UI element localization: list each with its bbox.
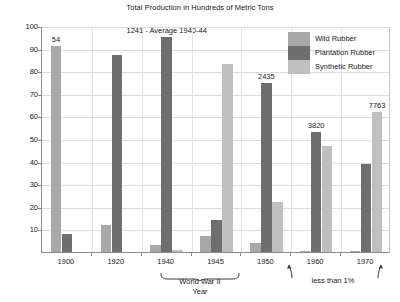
- bar-value-label: 3820: [299, 122, 333, 130]
- y-axis-tick-label: 90: [0, 46, 38, 54]
- less-than-one-label: less than 1%: [288, 276, 378, 285]
- bar-plantation-1940[interactable]: [161, 37, 172, 252]
- y-axis-tick-label: 50: [0, 136, 38, 144]
- bar-group: [92, 27, 142, 252]
- bar-synthetic-1970[interactable]: [372, 112, 383, 252]
- x-axis-tick-mark: [91, 253, 92, 256]
- bar-synthetic-1945[interactable]: [222, 64, 233, 252]
- y-axis-tick-label: 40: [0, 159, 38, 167]
- x-axis-tick-mark: [290, 253, 291, 256]
- group-separator: [192, 27, 193, 252]
- bar-group: 54: [42, 27, 92, 252]
- x-axis-tick-label: 1900: [46, 257, 86, 266]
- bar-synthetic-1940[interactable]: [172, 250, 183, 252]
- x-axis-tick-label: 1950: [245, 257, 285, 266]
- x-axis-tick-mark: [141, 253, 142, 256]
- bar-wild-1960[interactable]: [300, 251, 311, 252]
- bar-synthetic-1960[interactable]: [322, 146, 333, 252]
- bar-synthetic-1950[interactable]: [272, 202, 283, 252]
- x-axis-tick-label: 1920: [96, 257, 136, 266]
- bar-group: 2435: [241, 27, 291, 252]
- y-axis-tick-label: 60: [0, 113, 38, 121]
- bar-wild-1900[interactable]: [51, 46, 62, 252]
- bar-wild-1950[interactable]: [250, 243, 261, 252]
- legend-swatches: [288, 32, 310, 74]
- bar-group: [192, 27, 242, 252]
- legend-swatch-wild-rubber: [288, 32, 310, 46]
- bar-wild-1920[interactable]: [101, 225, 112, 252]
- bar-wild-1940[interactable]: [150, 245, 161, 252]
- bar-plantation-1920[interactable]: [112, 55, 123, 252]
- bar-group: 1241 - Average 1940-44: [142, 27, 192, 252]
- y-axis-tick-label: 30: [0, 181, 38, 189]
- legend-label-synthetic-rubber: Synthetic Rubber: [315, 60, 373, 74]
- x-axis-tick-mark: [240, 253, 241, 256]
- bar-value-label: 7763: [360, 102, 394, 110]
- bar-plantation-1945[interactable]: [211, 220, 222, 252]
- y-axis-tick-label: 100: [0, 23, 38, 31]
- group-separator: [92, 27, 93, 252]
- world-war-2-brace: [160, 267, 240, 275]
- legend-label-wild-rubber: Wild Rubber: [315, 32, 356, 46]
- legend-label-plantation-rubber: Plantation Rubber: [315, 46, 375, 60]
- legend-swatch-plantation-rubber: [288, 46, 310, 60]
- chart-title: Total Production in Hundreds of Metric T…: [0, 3, 400, 12]
- x-axis-tick-mark: [191, 253, 192, 256]
- bar-plantation-1970[interactable]: [361, 164, 372, 252]
- y-axis-tick-label: 10: [0, 226, 38, 234]
- y-axis-tick-label: 80: [0, 68, 38, 76]
- y-axis-tick-label: 70: [0, 91, 38, 99]
- bar-plantation-1960[interactable]: [311, 132, 322, 252]
- y-axis-tick-label: 20: [0, 204, 38, 212]
- group-separator: [142, 27, 143, 252]
- bar-wild-1970[interactable]: [350, 251, 361, 252]
- world-war-2-label: World War II: [155, 277, 245, 286]
- x-axis-tick-label: 1945: [196, 257, 236, 266]
- bar-value-label: 54: [39, 36, 73, 44]
- x-axis-tick-label: 1940: [146, 257, 186, 266]
- x-axis-title: Year: [0, 287, 400, 296]
- x-axis-tick-mark: [340, 253, 341, 256]
- bar-value-label: 2435: [249, 73, 283, 81]
- bar-plantation-1900[interactable]: [62, 234, 73, 252]
- bar-plantation-1950[interactable]: [261, 83, 272, 253]
- bar-wild-1945[interactable]: [200, 236, 211, 252]
- chart-container: Total Production in Hundreds of Metric T…: [0, 0, 400, 302]
- legend-swatch-synthetic-rubber: [288, 60, 310, 74]
- group-separator: [241, 27, 242, 252]
